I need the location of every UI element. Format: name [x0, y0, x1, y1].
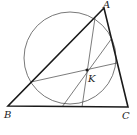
- label-b: B: [3, 109, 11, 120]
- point-k: [86, 69, 89, 72]
- label-k: K: [87, 73, 96, 84]
- chord-3: [62, 38, 112, 107]
- chord-2: [82, 18, 95, 107]
- triangle-abc: [8, 8, 128, 107]
- label-a: A: [102, 0, 110, 10]
- label-c: C: [122, 110, 130, 121]
- chord-1: [31, 63, 117, 82]
- circle: [24, 12, 116, 104]
- geometry-figure: A B C K: [0, 0, 137, 135]
